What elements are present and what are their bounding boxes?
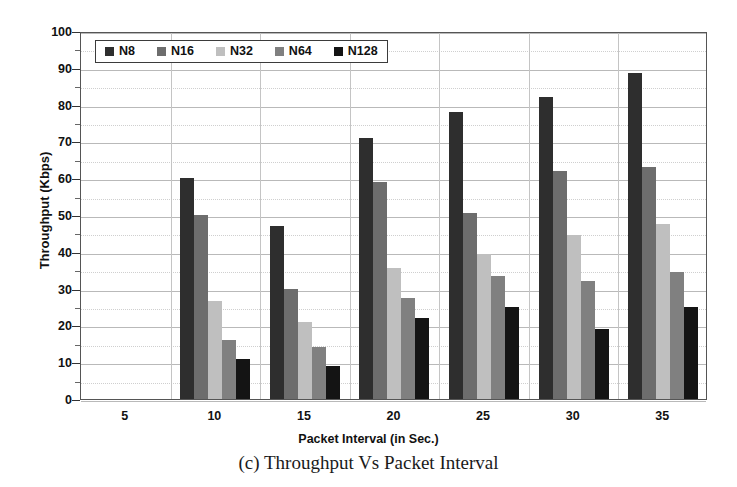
bar-n8 — [270, 226, 284, 399]
legend-item-n16[interactable]: N16 — [157, 45, 194, 58]
y-axis-tick-mark — [72, 32, 80, 33]
legend-swatch-icon — [275, 47, 284, 56]
bar-n8 — [539, 97, 553, 399]
bar-n8 — [449, 112, 463, 399]
x-axis-tick-label: 5 — [95, 409, 155, 423]
bar-n16 — [284, 289, 298, 399]
x-axis-title: Packet Interval (in Sec.) — [0, 432, 737, 446]
legend-swatch-icon — [105, 47, 114, 56]
y-axis-tick-mark — [72, 69, 80, 70]
y-axis-tick-label: 10 — [32, 356, 72, 370]
y-axis-tick-label: 40 — [32, 246, 72, 260]
legend-item-label: N16 — [171, 45, 194, 58]
bar-group — [618, 33, 708, 399]
y-axis-tick-mark — [72, 363, 80, 364]
y-axis-tick-label: 20 — [32, 319, 72, 333]
bar-n128 — [595, 329, 609, 399]
legend-swatch-icon — [216, 47, 225, 56]
bar-group — [350, 33, 440, 399]
y-axis-tick-mark — [72, 253, 80, 254]
bar-n16 — [373, 182, 387, 399]
bar-n8 — [359, 138, 373, 399]
bar-n64 — [491, 276, 505, 399]
legend-item-label: N8 — [119, 45, 135, 58]
legend-item-n8[interactable]: N8 — [105, 45, 135, 58]
x-axis-tick-label: 10 — [184, 409, 244, 423]
y-axis-tick-mark — [72, 326, 80, 327]
bar-group — [529, 33, 619, 399]
legend-swatch-icon — [157, 47, 166, 56]
y-axis-tick-label: 0 — [32, 393, 72, 407]
legend-item-n128[interactable]: N128 — [334, 45, 378, 58]
bar-n32 — [387, 268, 401, 399]
bar-n32 — [567, 235, 581, 399]
bar-n128 — [326, 366, 340, 399]
bar-n128 — [415, 318, 429, 399]
bar-n8 — [628, 73, 642, 399]
legend-item-n64[interactable]: N64 — [275, 45, 312, 58]
bar-n128 — [236, 359, 250, 399]
figure-caption: (c) Throughput Vs Packet Interval — [0, 452, 737, 474]
bar-group — [439, 33, 529, 399]
y-axis-tick-mark — [72, 216, 80, 217]
y-axis-tick-label: 100 — [32, 25, 72, 39]
x-axis-tick-label: 25 — [453, 409, 513, 423]
bar-n64 — [222, 340, 236, 399]
legend-item-label: N64 — [289, 45, 312, 58]
y-axis-tick-mark — [72, 290, 80, 291]
bar-n128 — [505, 307, 519, 399]
y-axis-tick-label: 60 — [32, 172, 72, 186]
bar-n128 — [684, 307, 698, 399]
y-axis-tick-mark — [72, 106, 80, 107]
bar-n16 — [463, 213, 477, 399]
bar-n64 — [401, 298, 415, 399]
x-axis-tick-label: 30 — [543, 409, 603, 423]
y-axis-tick-mark — [72, 142, 80, 143]
bar-n64 — [312, 347, 326, 399]
y-axis-tick-label: 70 — [32, 135, 72, 149]
bar-n16 — [553, 171, 567, 399]
bar-n32 — [656, 224, 670, 399]
bar-n32 — [477, 254, 491, 399]
x-axis-tick-label: 35 — [632, 409, 692, 423]
y-axis-tick-mark — [72, 179, 80, 180]
bar-group — [81, 33, 171, 399]
bar-n32 — [208, 301, 222, 399]
legend-item-n32[interactable]: N32 — [216, 45, 253, 58]
bar-n8 — [180, 178, 194, 399]
chart-legend: N8N16N32N64N128 — [95, 40, 388, 63]
legend-swatch-icon — [334, 47, 343, 56]
y-axis-tick-label: 80 — [32, 99, 72, 113]
y-axis-tick-label: 90 — [32, 62, 72, 76]
bar-n16 — [642, 167, 656, 399]
bar-n64 — [670, 272, 684, 399]
y-axis-tick-mark — [72, 400, 80, 401]
y-axis-tick-label: 30 — [32, 283, 72, 297]
legend-item-label: N128 — [348, 45, 378, 58]
legend-item-label: N32 — [230, 45, 253, 58]
bar-n16 — [194, 215, 208, 399]
plot-area — [80, 32, 707, 400]
bar-group — [171, 33, 261, 399]
y-axis-tick-label: 50 — [32, 209, 72, 223]
bar-n32 — [298, 322, 312, 399]
bar-n64 — [581, 281, 595, 399]
x-axis-tick-label: 15 — [274, 409, 334, 423]
x-axis-tick-label: 20 — [364, 409, 424, 423]
bar-group — [260, 33, 350, 399]
figure-container: Throughput (Kbps) 0102030405060708090100… — [0, 0, 737, 487]
gridline-major — [81, 401, 706, 402]
